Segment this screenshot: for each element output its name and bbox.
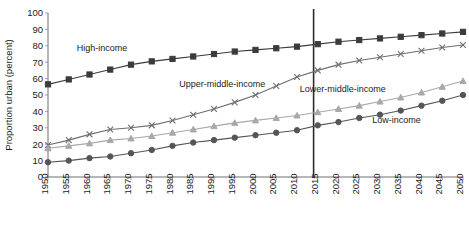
x-tick-label-1955: 1955 — [60, 173, 71, 194]
x-tick-label-2030: 2030 — [371, 173, 382, 194]
y-tick-label-50: 50 — [32, 89, 43, 100]
x-tick-label-2005: 2005 — [267, 173, 278, 194]
y-axis-title: Proportion urban (percent) — [3, 39, 14, 150]
y-tick-label-10: 10 — [32, 155, 43, 166]
x-tick-label-1950: 1950 — [39, 173, 50, 194]
series-annotation-upper-middle-income: Upper-middle-income — [179, 79, 265, 89]
marker-low-income-1950 — [45, 160, 50, 165]
y-tick-label-60: 60 — [32, 73, 43, 84]
y-tick-label-20: 20 — [32, 139, 43, 150]
x-tick-label-2040: 2040 — [413, 173, 424, 194]
marker-low-income-2005 — [274, 130, 279, 135]
marker-high-income-1995 — [232, 49, 237, 54]
marker-lower-middle-income-2050 — [460, 78, 466, 84]
x-tick-label-1970: 1970 — [122, 173, 133, 194]
series-line-low-income — [48, 95, 463, 162]
marker-high-income-1965 — [108, 67, 113, 72]
marker-upper-middle-income-2005 — [273, 83, 279, 89]
marker-low-income-1970 — [128, 151, 133, 156]
marker-high-income-1955 — [66, 77, 71, 82]
marker-high-income-2035 — [398, 34, 403, 39]
x-tick-label-2010: 2010 — [288, 173, 299, 194]
marker-high-income-2025 — [357, 37, 362, 42]
marker-low-income-2050 — [460, 92, 465, 97]
x-tick-label-2025: 2025 — [350, 173, 361, 194]
x-tick-label-2000: 2000 — [247, 173, 258, 194]
x-tick-label-1990: 1990 — [205, 173, 216, 194]
marker-low-income-2045 — [440, 98, 445, 103]
marker-low-income-1960 — [87, 155, 92, 160]
marker-low-income-2010 — [294, 128, 299, 133]
x-tick-label-1960: 1960 — [81, 173, 92, 194]
marker-low-income-2020 — [336, 119, 341, 124]
x-tick-label-1975: 1975 — [143, 173, 154, 194]
marker-high-income-2015 — [315, 42, 320, 47]
x-tick-label-2035: 2035 — [392, 173, 403, 194]
x-tick-label-1965: 1965 — [101, 173, 112, 194]
marker-upper-middle-income-1995 — [232, 99, 238, 105]
marker-low-income-2035 — [398, 108, 403, 113]
marker-high-income-1960 — [87, 72, 92, 77]
marker-high-income-1980 — [170, 56, 175, 61]
x-tick-label-2045: 2045 — [433, 173, 444, 194]
marker-high-income-2040 — [419, 33, 424, 38]
y-tick-label-100: 100 — [27, 7, 43, 18]
marker-high-income-2000 — [253, 47, 258, 52]
x-tick-label-1995: 1995 — [226, 173, 237, 194]
marker-high-income-1950 — [45, 82, 50, 87]
marker-low-income-2040 — [419, 103, 424, 108]
x-tick-label-2050: 2050 — [454, 173, 465, 194]
y-tick-label-80: 80 — [32, 40, 43, 51]
x-tick-label-1985: 1985 — [184, 173, 195, 194]
marker-low-income-1980 — [170, 143, 175, 148]
marker-low-income-2015 — [315, 123, 320, 128]
marker-high-income-2020 — [336, 39, 341, 44]
y-tick-label-90: 90 — [32, 24, 43, 35]
marker-low-income-1955 — [66, 158, 71, 163]
marker-high-income-2050 — [460, 29, 465, 34]
series-annotation-high-income: High-income — [77, 43, 128, 53]
series-annotation-low-income: Low-income — [372, 115, 421, 125]
marker-low-income-1995 — [232, 135, 237, 140]
marker-upper-middle-income-2000 — [253, 92, 259, 98]
x-tick-label-1980: 1980 — [164, 173, 175, 194]
marker-low-income-2000 — [253, 132, 258, 137]
chart-container: 0102030405060708090100195019551960196519… — [0, 0, 469, 226]
marker-upper-middle-income-2010 — [294, 74, 300, 80]
y-tick-label-70: 70 — [32, 57, 43, 68]
y-tick-label-30: 30 — [32, 122, 43, 133]
x-tick-label-2020: 2020 — [330, 173, 341, 194]
marker-high-income-2045 — [440, 31, 445, 36]
marker-high-income-2030 — [377, 36, 382, 41]
marker-high-income-1985 — [191, 54, 196, 59]
series-annotation-lower-middle-income: Lower-middle-income — [300, 84, 386, 94]
marker-low-income-1975 — [149, 147, 154, 152]
marker-low-income-2025 — [357, 115, 362, 120]
y-tick-label-40: 40 — [32, 106, 43, 117]
marker-high-income-1990 — [211, 51, 216, 56]
marker-low-income-1985 — [191, 140, 196, 145]
marker-high-income-2010 — [294, 44, 299, 49]
marker-high-income-2005 — [274, 46, 279, 51]
marker-high-income-1970 — [128, 62, 133, 67]
urbanization-line-chart: 0102030405060708090100195019551960196519… — [0, 0, 469, 226]
marker-high-income-1975 — [149, 59, 154, 64]
marker-low-income-1965 — [108, 154, 113, 159]
marker-low-income-1990 — [211, 137, 216, 142]
